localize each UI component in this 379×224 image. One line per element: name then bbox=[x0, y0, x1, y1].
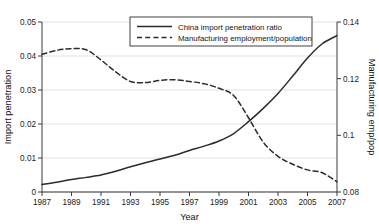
x-axis-ticks: 1987198919911993199519971999200120032005… bbox=[33, 192, 347, 207]
series-lines bbox=[42, 36, 337, 185]
legend-label-1: China import penetration ratio bbox=[178, 23, 283, 32]
x-tick-label: 2007 bbox=[328, 198, 347, 207]
x-tick-label: 2003 bbox=[269, 198, 288, 207]
x-tick-label: 1989 bbox=[62, 198, 81, 207]
chart-legend: China import penetration ratioManufactur… bbox=[130, 17, 312, 46]
y-tick-label-right: 0.12 bbox=[343, 75, 359, 84]
y-tick-label-right: 0.14 bbox=[343, 18, 359, 27]
chart-figure: 00.010.020.030.040.05 0.080.10.120.14 19… bbox=[0, 0, 379, 224]
y-tick-label-left: 0 bbox=[31, 188, 36, 197]
x-tick-label: 2005 bbox=[298, 198, 317, 207]
y-tick-label-left: 0.04 bbox=[20, 52, 36, 61]
y-tick-label-left: 0.01 bbox=[20, 154, 36, 163]
x-axis-label: Year bbox=[180, 212, 199, 222]
x-tick-label: 2001 bbox=[239, 198, 258, 207]
y-tick-label-right: 0.08 bbox=[343, 188, 359, 197]
legend-label-2: Manufacturing employment/population bbox=[178, 34, 312, 43]
x-tick-label: 1991 bbox=[92, 198, 111, 207]
y-axis-left-label: Import penetration bbox=[3, 70, 13, 145]
y-tick-label-left: 0.02 bbox=[20, 120, 36, 129]
x-tick-label: 1997 bbox=[180, 198, 199, 207]
y-axis-right-label: Manufacturing emp/pop bbox=[367, 59, 377, 156]
y-tick-label-left: 0.03 bbox=[20, 86, 36, 95]
series-line-1 bbox=[42, 36, 337, 185]
y-axis-right-ticks: 0.080.10.120.14 bbox=[337, 18, 359, 197]
gridlines bbox=[42, 22, 337, 192]
series-line-2 bbox=[42, 48, 337, 181]
y-axis-left-ticks: 00.010.020.030.040.05 bbox=[20, 18, 42, 197]
chart-svg: 00.010.020.030.040.05 0.080.10.120.14 19… bbox=[0, 0, 379, 224]
x-tick-label: 1995 bbox=[151, 198, 170, 207]
axis-frame bbox=[42, 22, 337, 192]
x-tick-label: 1993 bbox=[121, 198, 140, 207]
y-tick-label-right: 0.1 bbox=[343, 131, 355, 140]
y-tick-label-left: 0.05 bbox=[20, 18, 36, 27]
x-tick-label: 1987 bbox=[33, 198, 52, 207]
x-tick-label: 1999 bbox=[210, 198, 229, 207]
